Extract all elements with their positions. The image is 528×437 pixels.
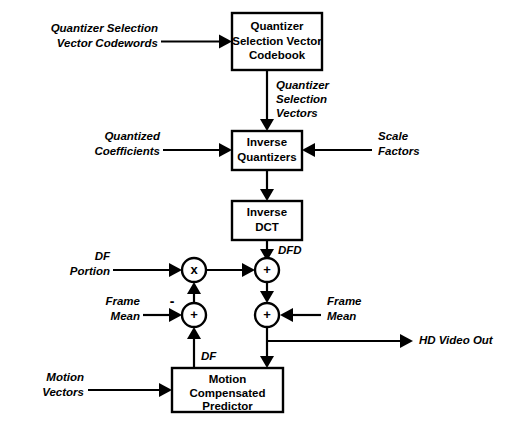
minus-sign-label: -	[170, 293, 175, 309]
wire-frame-mean-right-to-adder	[280, 308, 321, 322]
adder-glyph: +	[263, 307, 271, 322]
operator-multiplier[interactable]: x	[182, 258, 206, 282]
signal-label-line: DF	[95, 250, 111, 262]
block-label-line: Selection Vector	[232, 35, 322, 47]
signal-label-line: Quantizer	[276, 79, 330, 91]
wire-motion-vectors-to-predictor	[88, 383, 172, 397]
operator-adder-dfd[interactable]: +	[255, 258, 279, 282]
signal-label-line: Scale	[378, 130, 409, 142]
signal-label-line: Mean	[327, 310, 356, 322]
label-dfd: DFD	[278, 244, 302, 256]
wire-codewords-to-codebook	[161, 35, 232, 49]
block-label-line: Predictor	[202, 400, 253, 412]
wire-scale-factors-to-inverse-quantizers	[302, 143, 372, 157]
operator-adder-frame-mean-right[interactable]: +	[255, 303, 279, 327]
signal-label-line: Factors	[378, 145, 420, 157]
label-quantizer-selection-vectors: Quantizer Selection Vectors	[276, 79, 330, 119]
block-label-line: Compensated	[189, 387, 265, 399]
signal-label-line: Frame	[327, 295, 362, 307]
label-frame-mean-right: Frame Mean	[327, 295, 362, 322]
label-quantizer-selection-vector-codewords: Quantizer Selection Vector Codewords	[51, 22, 158, 49]
signal-label-line: Quantizer Selection	[51, 22, 158, 34]
label-quantized-coefficients: Quantized Coefficients	[94, 130, 161, 157]
wire-df-portion-to-multiplier	[113, 263, 182, 277]
block-inverse-quantizers[interactable]: Inverse Quantizers	[232, 131, 302, 170]
signal-label-line: Coefficients	[94, 145, 160, 157]
wire-hd-video-out	[267, 334, 413, 348]
wire-left-adder-to-multiplier	[187, 282, 201, 303]
wire-df-to-left-adder	[187, 327, 201, 368]
label-motion-vectors: Motion Vectors	[42, 371, 84, 398]
diagram-svg: Quantizer Selection Vector Codebook Inve…	[0, 0, 528, 437]
signal-label-line: Mean	[111, 310, 140, 322]
signal-label-line: Selection	[276, 93, 327, 105]
wire-adder-dfd-to-right-adder	[260, 282, 274, 303]
block-label-line: Quantizers	[237, 151, 296, 163]
wire-codebook-to-inverse-quantizers	[260, 70, 274, 131]
signal-label-line: Frame	[105, 295, 140, 307]
multiplier-glyph: x	[190, 262, 198, 277]
block-diagram-canvas: Quantizer Selection Vector Codebook Inve…	[0, 0, 528, 437]
signal-label-line: Vector Codewords	[57, 37, 158, 49]
block-label-line: Motion	[209, 373, 247, 385]
signal-label-line: Quantized	[104, 130, 161, 142]
adder-glyph: +	[263, 262, 271, 277]
operator-adder-frame-mean-left[interactable]: + -	[170, 293, 206, 327]
wire-frame-mean-left-to-adder	[143, 308, 182, 322]
label-hd-video-out: HD Video Out	[419, 334, 494, 346]
signal-label-line: DF	[201, 350, 217, 362]
block-label-line: Inverse	[247, 206, 287, 218]
label-scale-factors: Scale Factors	[378, 130, 420, 157]
block-quantizer-selection-vector-codebook[interactable]: Quantizer Selection Vector Codebook	[232, 13, 322, 70]
label-df: DF	[201, 350, 217, 362]
wire-quantized-coefficients-to-inverse-quantizers	[163, 143, 232, 157]
wire-branch-to-predictor	[260, 341, 274, 368]
block-inverse-dct[interactable]: Inverse DCT	[232, 201, 302, 240]
label-df-portion: DF Portion	[70, 250, 111, 277]
signal-label-line: Motion	[46, 371, 84, 383]
signal-label-line: Portion	[70, 265, 110, 277]
signal-label-line: DFD	[278, 244, 302, 256]
adder-glyph: +	[190, 307, 198, 322]
block-label-line: Codebook	[249, 49, 306, 61]
label-frame-mean-left: Frame Mean	[105, 295, 140, 322]
block-motion-compensated-predictor[interactable]: Motion Compensated Predictor	[172, 368, 283, 412]
block-label-line: Quantizer	[250, 20, 304, 32]
block-label-line: DCT	[255, 221, 279, 233]
signal-label-line: HD Video Out	[419, 334, 494, 346]
signal-label-line: Vectors	[42, 386, 84, 398]
block-label-line: Inverse	[247, 136, 287, 148]
signal-label-line: Vectors	[276, 107, 318, 119]
wire-multiplier-to-adder-dfd	[206, 263, 255, 277]
wire-inverse-quantizers-to-inverse-dct	[260, 170, 274, 201]
